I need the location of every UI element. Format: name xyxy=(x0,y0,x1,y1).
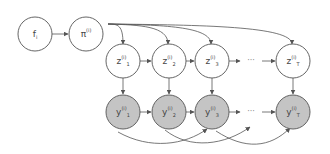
edge-y2-skip xyxy=(165,127,250,143)
node-y2: y(i)2 xyxy=(152,95,186,129)
edge-pi-zT xyxy=(108,24,292,44)
node-z2: z(i)2 xyxy=(152,44,186,78)
edge-pi-z2 xyxy=(108,24,168,44)
node-y1: y(i)1 xyxy=(106,95,140,129)
node-y3: y(i)3 xyxy=(195,95,229,129)
node-f: fi xyxy=(18,17,52,51)
node-zT: z(i)T xyxy=(276,44,310,78)
node-z3: z(i)3 xyxy=(195,44,229,78)
edge-pi-z1 xyxy=(108,24,123,44)
z-row-ellipsis: ··· xyxy=(247,56,255,65)
node-z1: z(i)1 xyxy=(106,44,140,78)
edge-pi-z3 xyxy=(108,24,211,44)
y-row-ellipsis: ··· xyxy=(247,107,255,116)
node-pi: π(i) xyxy=(69,17,103,51)
graphical-model-diagram: ··· ··· fi π(i) z(i)1 z(i)2 z(i)3 z(i)T … xyxy=(0,0,330,154)
edge-y3-yT xyxy=(216,128,290,144)
edge-y1-y3 xyxy=(118,129,207,143)
node-yT: y(i)T xyxy=(276,95,310,129)
